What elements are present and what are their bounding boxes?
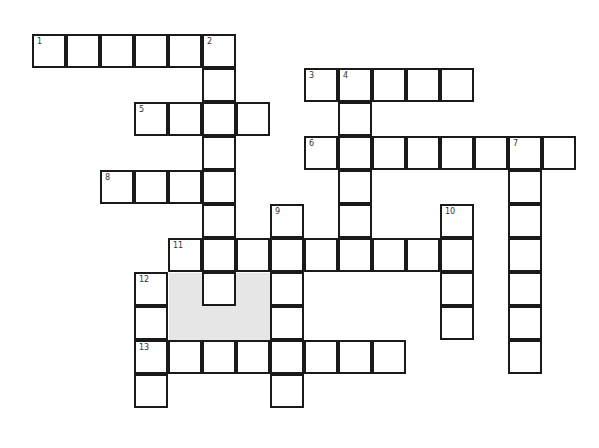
crossword-cell[interactable] <box>202 204 236 238</box>
crossword-cell[interactable] <box>270 238 304 272</box>
crossword-cell[interactable] <box>168 102 202 136</box>
crossword-cell[interactable] <box>338 204 372 238</box>
crossword-cell[interactable] <box>474 136 508 170</box>
crossword-cell[interactable] <box>440 136 474 170</box>
crossword-cell[interactable] <box>236 102 270 136</box>
crossword-cell[interactable] <box>372 340 406 374</box>
clue-number: 2 <box>207 38 212 46</box>
crossword-cell[interactable] <box>338 136 372 170</box>
crossword-cell[interactable] <box>338 238 372 272</box>
crossword-cell[interactable] <box>406 238 440 272</box>
crossword-cell[interactable] <box>304 340 338 374</box>
clue-number: 11 <box>173 242 183 250</box>
crossword-cell[interactable] <box>168 34 202 68</box>
crossword-cell[interactable] <box>202 136 236 170</box>
crossword-cell[interactable]: 10 <box>440 204 474 238</box>
clue-number: 12 <box>139 276 149 284</box>
crossword-cell[interactable] <box>508 306 542 340</box>
crossword-cell[interactable] <box>406 68 440 102</box>
crossword-cell[interactable] <box>202 102 236 136</box>
crossword-cell[interactable]: 6 <box>304 136 338 170</box>
crossword-cell[interactable] <box>304 238 338 272</box>
clue-number: 6 <box>309 140 314 148</box>
crossword-cell[interactable]: 3 <box>304 68 338 102</box>
crossword-cell[interactable] <box>440 68 474 102</box>
crossword-cell[interactable] <box>270 340 304 374</box>
crossword-cell[interactable]: 7 <box>508 136 542 170</box>
clue-number: 9 <box>275 208 280 216</box>
clue-number: 4 <box>343 72 348 80</box>
crossword-cell[interactable] <box>542 136 576 170</box>
crossword-cell[interactable]: 2 <box>202 34 236 68</box>
crossword-cell[interactable] <box>236 340 270 374</box>
crossword-cell[interactable] <box>236 238 270 272</box>
crossword-cell[interactable] <box>134 170 168 204</box>
clue-number: 7 <box>513 140 518 148</box>
crossword-cell[interactable] <box>372 238 406 272</box>
crossword-cell[interactable] <box>202 68 236 102</box>
clue-number: 1 <box>37 38 42 46</box>
crossword-cell[interactable] <box>66 34 100 68</box>
crossword-cell[interactable] <box>168 340 202 374</box>
clue-number: 3 <box>309 72 314 80</box>
crossword-cell[interactable] <box>338 340 372 374</box>
crossword-cell[interactable] <box>134 374 168 408</box>
crossword-cell[interactable] <box>406 136 440 170</box>
crossword-cell[interactable] <box>202 340 236 374</box>
clue-number: 13 <box>139 344 149 352</box>
crossword-cell[interactable]: 12 <box>134 272 168 306</box>
crossword-cell[interactable] <box>508 238 542 272</box>
crossword-cell[interactable] <box>100 34 134 68</box>
clue-number: 8 <box>105 174 110 182</box>
crossword-cell[interactable]: 13 <box>134 340 168 374</box>
crossword-cell[interactable] <box>338 170 372 204</box>
crossword-cell[interactable] <box>270 306 304 340</box>
crossword-cell[interactable] <box>372 68 406 102</box>
crossword-cell[interactable] <box>372 136 406 170</box>
crossword-cell[interactable] <box>168 170 202 204</box>
crossword-grid: 12345678910111213 <box>0 0 599 448</box>
crossword-cell[interactable] <box>508 272 542 306</box>
crossword-cell[interactable] <box>440 238 474 272</box>
crossword-cell[interactable] <box>202 272 236 306</box>
clue-number: 10 <box>445 208 455 216</box>
crossword-cell[interactable]: 5 <box>134 102 168 136</box>
crossword-cell[interactable] <box>270 374 304 408</box>
crossword-cell[interactable] <box>508 170 542 204</box>
crossword-cell[interactable] <box>202 170 236 204</box>
crossword-cell[interactable]: 4 <box>338 68 372 102</box>
crossword-cell[interactable] <box>134 306 168 340</box>
crossword-cell[interactable] <box>508 340 542 374</box>
crossword-cell[interactable] <box>134 34 168 68</box>
crossword-cell[interactable] <box>508 204 542 238</box>
crossword-cell[interactable]: 11 <box>168 238 202 272</box>
crossword-cell[interactable] <box>270 272 304 306</box>
crossword-cell[interactable]: 1 <box>32 34 66 68</box>
crossword-cell[interactable] <box>338 102 372 136</box>
crossword-cell[interactable]: 8 <box>100 170 134 204</box>
crossword-cell[interactable]: 9 <box>270 204 304 238</box>
clue-number: 5 <box>139 106 144 114</box>
crossword-cell[interactable] <box>440 272 474 306</box>
crossword-cell[interactable] <box>202 238 236 272</box>
crossword-cell[interactable] <box>440 306 474 340</box>
